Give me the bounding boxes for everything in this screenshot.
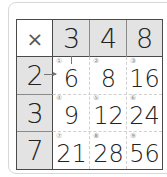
col-header-divider <box>126 20 127 57</box>
grid-dashed-line <box>89 57 90 169</box>
grid-dashed-line <box>126 57 127 169</box>
cell-value: 8 <box>101 67 116 91</box>
cell-index: ③ <box>130 58 136 65</box>
cell-value: 28 <box>93 142 124 166</box>
product-cell: ④9 <box>53 94 90 132</box>
cell-value: 12 <box>93 104 124 128</box>
cell-index: ⑨ <box>130 133 136 140</box>
row-header: 3 <box>17 94 53 132</box>
row-header: 7 <box>17 132 53 169</box>
product-cell: ⑦21 <box>53 132 90 169</box>
cell-value: 24 <box>129 104 160 128</box>
times-symbol: × <box>27 27 44 51</box>
cell-index: ④ <box>56 95 62 102</box>
product-cell: ⑨56 <box>127 132 162 169</box>
cell-index: ⑦ <box>56 133 62 140</box>
cell-value: 56 <box>129 142 160 166</box>
multiplication-table: × 3 4 8 2 3 7 ①6 ②8 ③16 ④9 ⑤12 ⑥24 ⑦21 ⑧… <box>16 19 163 170</box>
row-header-divider <box>17 94 53 95</box>
product-cell: ②8 <box>90 57 127 94</box>
cell-value: 16 <box>129 67 160 91</box>
col-header-divider <box>89 20 90 57</box>
operator-cell: × <box>17 20 53 57</box>
cell-value: 6 <box>64 67 79 91</box>
grid-dashed-line <box>53 94 162 95</box>
cell-index: ⑧ <box>93 133 99 140</box>
cell-value: 21 <box>56 142 87 166</box>
arrow-down-icon <box>71 56 72 64</box>
arrow-right-icon <box>44 74 56 75</box>
column-header: 3 <box>53 20 90 57</box>
cell-index: ② <box>93 58 99 65</box>
cell-value: 9 <box>64 104 79 128</box>
cell-index: ⑤ <box>93 95 99 102</box>
product-cell: ⑥24 <box>127 94 162 132</box>
column-header: 4 <box>90 20 127 57</box>
cell-index: ⑥ <box>130 95 136 102</box>
row-header-divider <box>17 131 53 132</box>
column-header: 8 <box>127 20 162 57</box>
grid-dashed-line <box>53 131 162 132</box>
cell-index: ① <box>56 58 62 65</box>
product-cell: ③16 <box>127 57 162 94</box>
product-cell: ⑧28 <box>90 132 127 169</box>
product-cell: ⑤12 <box>90 94 127 132</box>
row-header: 2 <box>17 57 53 94</box>
